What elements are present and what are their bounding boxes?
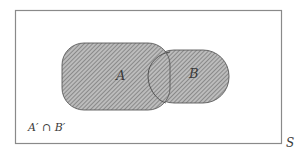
universe-label: S [286,136,294,150]
set-b-label: B [188,66,199,81]
complement-intersection-label: A′ ∩ B′ [27,121,66,134]
venn-diagram: A B A′ ∩ B′ S [0,0,308,154]
set-a-label: A [115,68,125,83]
